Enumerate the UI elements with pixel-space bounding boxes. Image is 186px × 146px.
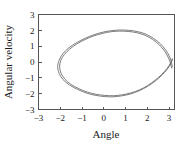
- y-tick-label: 2: [30, 26, 35, 36]
- y-tick-label: −2: [25, 89, 35, 99]
- y-tick-label: −1: [25, 73, 35, 83]
- x-tick-label: 1: [123, 113, 128, 123]
- y-axis-label: Angular velocity: [2, 24, 14, 99]
- y-tick-label: 0: [30, 57, 35, 67]
- y-tick-label: 1: [30, 41, 35, 51]
- x-tick-label: −1: [77, 113, 87, 123]
- phase-portrait-chart: −3−2−10123 −3−2−10123 Angle Angular velo…: [0, 0, 186, 146]
- x-tick-label: 3: [167, 113, 172, 123]
- chart-figure: −3−2−10123 −3−2−10123 Angle Angular velo…: [0, 0, 186, 146]
- x-axis-label: Angle: [93, 128, 120, 140]
- x-tick-label: −2: [55, 113, 65, 123]
- y-tick-label: −3: [25, 105, 35, 115]
- x-tick-label: 0: [102, 113, 107, 123]
- y-tick-label: 3: [30, 10, 35, 20]
- x-tick-label: 2: [145, 113, 150, 123]
- x-tick-label: −3: [34, 113, 44, 123]
